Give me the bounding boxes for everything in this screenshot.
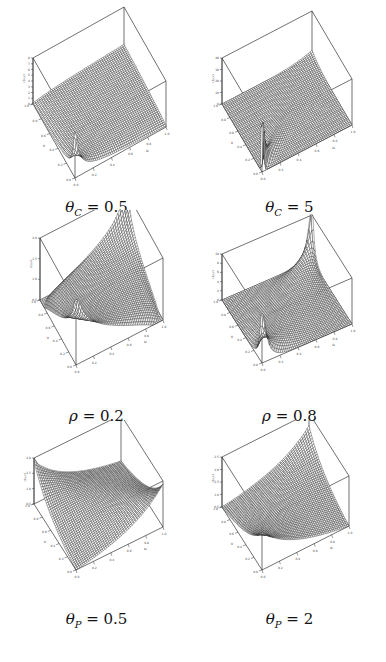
svg-text:0.0: 0.0: [74, 183, 79, 187]
svg-text:0.6: 0.6: [127, 343, 132, 347]
svg-text:0: 0: [28, 102, 30, 106]
surface-plot: 0.00.20.40.60.81.00.00.20.40.60.81.00246…: [193, 210, 386, 410]
svg-text:1.0: 1.0: [351, 130, 356, 134]
svg-text:c(u,v): c(u,v): [211, 474, 215, 483]
svg-text:c(u,v): c(u,v): [23, 473, 27, 482]
svg-text:0.8: 0.8: [146, 142, 151, 146]
svg-text:c(u,v): c(u,v): [211, 270, 215, 279]
panel-theta-p-0-5: 0.00.20.40.60.81.00.00.20.40.60.81.00.51…: [0, 420, 193, 640]
svg-text:0.5: 0.5: [32, 298, 37, 302]
svg-text:0.8: 0.8: [33, 119, 38, 123]
svg-text:u: u: [330, 545, 333, 550]
svg-text:0.0: 0.0: [66, 178, 71, 182]
svg-text:1.0: 1.0: [32, 277, 37, 281]
svg-text:0.8: 0.8: [34, 517, 39, 521]
svg-text:2: 2: [28, 91, 30, 95]
surface-plot: 0.00.20.40.60.81.00.00.20.40.60.81.00.51…: [0, 420, 193, 620]
surface-plot: 0.00.20.40.60.81.00.00.20.40.60.81.00102…: [193, 0, 386, 200]
svg-text:40: 40: [215, 56, 219, 60]
svg-text:0.4: 0.4: [49, 148, 54, 152]
svg-text:0.6: 0.6: [229, 131, 234, 135]
svg-text:0.0: 0.0: [253, 363, 258, 367]
panel-theta-c-5: 0.00.20.40.60.81.00.00.20.40.60.81.00102…: [193, 0, 386, 220]
svg-text:0.4: 0.4: [50, 544, 55, 548]
svg-text:0.2: 0.2: [279, 168, 284, 172]
svg-text:0.8: 0.8: [144, 541, 149, 545]
svg-text:0.2: 0.2: [92, 173, 97, 177]
caption: θP = 0.5: [0, 610, 193, 630]
svg-text:1.0: 1.0: [348, 531, 353, 535]
svg-text:30: 30: [215, 68, 219, 72]
svg-text:1: 1: [28, 96, 30, 100]
svg-text:0.4: 0.4: [295, 557, 300, 561]
svg-text:1.0: 1.0: [351, 329, 356, 333]
svg-text:u: u: [332, 145, 335, 150]
svg-text:0.0: 0.0: [253, 570, 258, 574]
surface-mesh: [222, 426, 349, 540]
surface-plot: 0.00.20.40.60.81.00.00.20.40.60.81.00123…: [0, 0, 193, 200]
svg-text:0.2: 0.2: [279, 360, 284, 364]
svg-text:2.5: 2.5: [214, 455, 219, 459]
svg-text:2: 2: [217, 289, 219, 293]
svg-text:c(u,v): c(u,v): [29, 260, 33, 269]
svg-text:v: v: [47, 335, 50, 340]
svg-text:0.6: 0.6: [315, 345, 320, 349]
svg-text:0.2: 0.2: [245, 158, 250, 162]
svg-text:2.0: 2.0: [214, 468, 219, 472]
svg-text:1.0: 1.0: [162, 325, 167, 329]
svg-text:v: v: [231, 334, 234, 339]
panel-rho-0-2: 0.00.20.40.60.81.00.00.20.40.60.81.00.51…: [0, 210, 193, 430]
svg-text:c(u,v): c(u,v): [211, 74, 215, 83]
svg-text:0.4: 0.4: [237, 145, 242, 149]
svg-text:0.0: 0.0: [261, 575, 266, 579]
svg-text:u: u: [332, 342, 335, 347]
svg-text:0.0: 0.0: [261, 177, 266, 181]
svg-text:0: 0: [217, 298, 219, 302]
svg-text:8: 8: [28, 56, 30, 60]
svg-text:2.0: 2.0: [26, 456, 31, 460]
svg-text:0.5: 0.5: [214, 505, 219, 509]
panel-theta-c-0-5: 0.00.20.40.60.81.00.00.20.40.60.81.00123…: [0, 0, 193, 220]
svg-text:0.8: 0.8: [330, 540, 335, 544]
svg-text:1.0: 1.0: [162, 532, 167, 536]
svg-text:0.4: 0.4: [237, 338, 242, 342]
svg-text:2.0: 2.0: [32, 236, 37, 240]
svg-text:v: v: [231, 140, 234, 145]
svg-text:v: v: [231, 541, 234, 546]
svg-text:0.6: 0.6: [229, 532, 234, 536]
svg-text:0.8: 0.8: [221, 118, 226, 122]
svg-text:0.2: 0.2: [245, 557, 250, 561]
svg-text:6: 6: [217, 270, 219, 274]
svg-text:0.0: 0.0: [75, 575, 80, 579]
svg-text:0.2: 0.2: [59, 557, 64, 561]
svg-text:0.8: 0.8: [333, 139, 338, 143]
svg-text:0.0: 0.0: [253, 172, 258, 176]
svg-text:0.6: 0.6: [46, 326, 51, 330]
svg-text:0.6: 0.6: [315, 149, 320, 153]
surface-plot: 0.00.20.40.60.81.00.00.20.40.60.81.00.51…: [0, 210, 193, 410]
svg-text:0.8: 0.8: [221, 313, 226, 317]
svg-text:0.6: 0.6: [127, 549, 132, 553]
svg-text:0.4: 0.4: [109, 558, 114, 562]
svg-text:10: 10: [215, 91, 219, 95]
svg-text:20: 20: [215, 79, 219, 83]
svg-text:0.8: 0.8: [221, 520, 226, 524]
svg-text:0.6: 0.6: [313, 549, 318, 553]
svg-text:0.2: 0.2: [245, 350, 250, 354]
svg-text:0.0: 0.0: [261, 368, 266, 372]
svg-text:10: 10: [215, 252, 219, 256]
svg-text:0.2: 0.2: [92, 361, 97, 365]
svg-text:1.0: 1.0: [214, 493, 219, 497]
svg-text:4: 4: [217, 280, 219, 284]
svg-text:0.0: 0.0: [75, 370, 80, 374]
svg-text:0.2: 0.2: [58, 163, 63, 167]
svg-text:7: 7: [28, 62, 30, 66]
svg-text:1.0: 1.0: [165, 132, 170, 136]
svg-text:0.4: 0.4: [297, 158, 302, 162]
surface-mesh: [222, 50, 352, 169]
svg-text:0.2: 0.2: [60, 352, 65, 356]
svg-text:8: 8: [217, 261, 219, 265]
svg-text:0.8: 0.8: [144, 334, 149, 338]
svg-text:5: 5: [28, 73, 30, 77]
svg-text:0.2: 0.2: [278, 566, 283, 570]
